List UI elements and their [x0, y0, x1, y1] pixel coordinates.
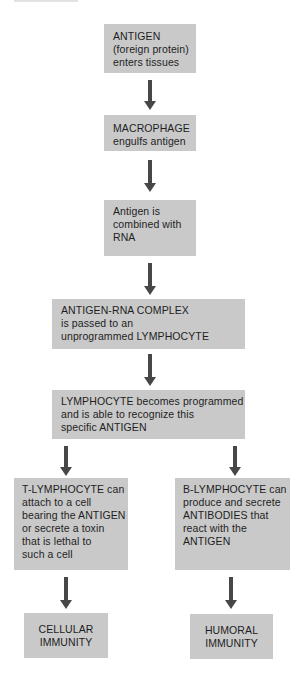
arrow-down-icon: [144, 263, 156, 295]
node-t-lymphocyte-line-3: bearing the ANTIGEN: [22, 509, 128, 522]
node-antigen: ANTIGEN (foreign protein) enters tissues: [104, 24, 196, 73]
node-complex-line-1: ANTIGEN-RNA COMPLEX: [61, 304, 245, 317]
arrow-down-icon: [229, 446, 241, 476]
node-programmed-line-3: specific ANTIGEN: [61, 421, 245, 434]
arrow-down-icon: [60, 446, 72, 476]
node-t-lymphocyte-line-6: such a cell: [22, 548, 128, 561]
node-antigen-line-2: (foreign protein): [113, 43, 196, 56]
arrow-down-icon: [144, 160, 156, 192]
node-t-lymphocyte-line-5: that is lethal to: [22, 535, 128, 548]
node-b-lymphocyte-line-1: B-LYMPHOCYTE can: [183, 483, 290, 496]
node-antigen-rna: Antigen is combined with RNA: [104, 200, 196, 256]
node-antigen-line-3: enters tissues: [113, 56, 196, 69]
node-b-lymphocyte: B-LYMPHOCYTE can produce and secrete ANT…: [175, 478, 290, 570]
node-complex-line-2: is passed to an: [61, 317, 245, 330]
arrow-down-icon: [144, 80, 156, 110]
node-cellular-line-2: IMMUNITY: [24, 636, 108, 649]
node-b-lymphocyte-line-5: ANTIGEN: [183, 535, 290, 548]
arrow-down-icon: [60, 577, 72, 609]
node-macrophage: MACROPHAGE engulfs antigen: [104, 115, 196, 151]
node-b-lymphocyte-line-2: produce and secrete: [183, 496, 290, 509]
cropped-text-remnant: [14, 0, 78, 2]
node-b-lymphocyte-line-4: react with the: [183, 522, 290, 535]
node-programmed-line-1: LYMPHOCYTE becomes programmed: [61, 395, 245, 408]
node-t-lymphocyte-line-2: attach to a cell: [22, 496, 128, 509]
node-macrophage-line-2: engulfs antigen: [113, 135, 196, 148]
node-t-lymphocyte-line-1: T-LYMPHOCYTE can: [22, 483, 128, 496]
arrow-down-icon: [144, 354, 156, 386]
node-antigen-rna-line-1: Antigen is: [113, 205, 196, 218]
node-macrophage-line-1: MACROPHAGE: [113, 122, 196, 135]
node-cellular-immunity: CELLULAR IMMUNITY: [24, 613, 108, 658]
node-programmed: LYMPHOCYTE becomes programmed and is abl…: [52, 390, 245, 439]
node-humoral-immunity: HUMORAL IMMUNITY: [190, 614, 273, 659]
node-complex: ANTIGEN-RNA COMPLEX is passed to an unpr…: [52, 299, 245, 349]
node-b-lymphocyte-line-3: ANTIBODIES that: [183, 509, 290, 522]
node-humoral-line-2: IMMUNITY: [190, 637, 273, 650]
node-complex-line-3: unprogrammed LYMPHOCYTE: [61, 330, 245, 343]
node-t-lymphocyte-line-4: or secrete a toxin: [22, 522, 128, 535]
node-antigen-rna-line-2: combined with: [113, 218, 196, 231]
node-cellular-line-1: CELLULAR: [24, 623, 108, 636]
node-antigen-line-1: ANTIGEN: [113, 30, 196, 43]
node-antigen-rna-line-3: RNA: [113, 231, 196, 244]
node-programmed-line-2: and is able to recognize this: [61, 408, 245, 421]
node-humoral-line-1: HUMORAL: [190, 624, 273, 637]
arrow-down-icon: [225, 577, 237, 609]
node-t-lymphocyte: T-LYMPHOCYTE can attach to a cell bearin…: [14, 478, 128, 570]
